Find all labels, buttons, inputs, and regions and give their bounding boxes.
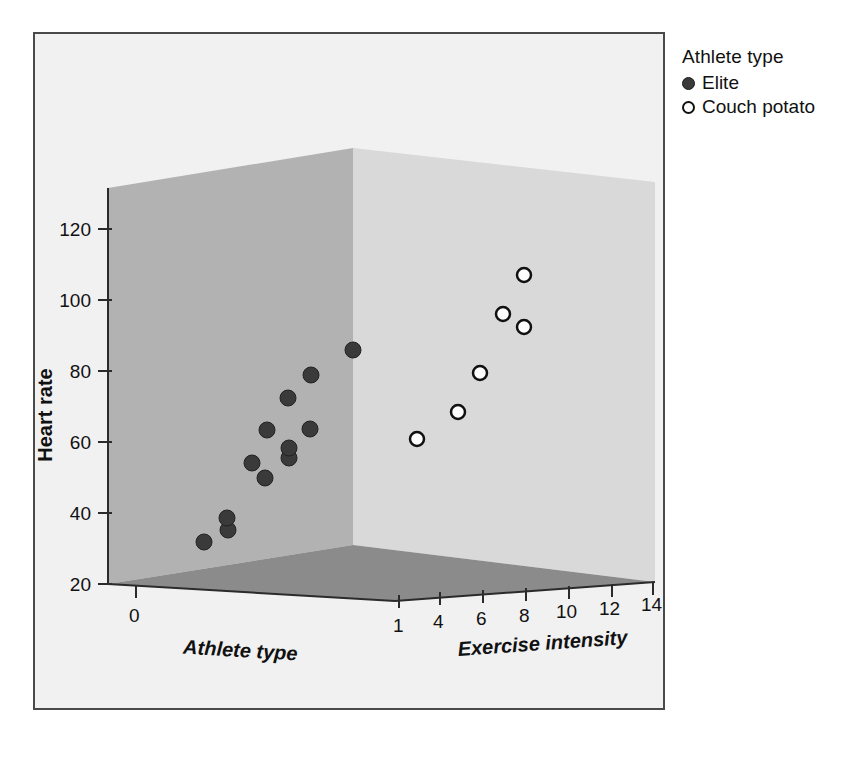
x-tick-label-4: 4	[433, 611, 444, 632]
data-point-couch-potato[interactable]	[410, 432, 424, 446]
data-point-elite[interactable]	[302, 421, 318, 437]
x-tick-label-6: 6	[476, 608, 487, 629]
legend-label-elite: Elite	[702, 72, 739, 94]
data-point-elite[interactable]	[280, 390, 296, 406]
data-point-couch-potato[interactable]	[451, 405, 465, 419]
data-point-couch-potato[interactable]	[496, 307, 510, 321]
z-tick-label-40: 40	[70, 503, 91, 524]
legend-item-couch-potato[interactable]: Couch potato	[682, 96, 847, 118]
legend-label-couch-potato: Couch potato	[702, 96, 815, 118]
z-tick-label-20: 20	[70, 574, 91, 595]
data-point-couch-potato[interactable]	[517, 320, 531, 334]
legend-title: Athlete type	[682, 46, 847, 68]
x-tick-label-12: 12	[599, 598, 620, 619]
y-tick-label-0: 0	[129, 605, 140, 626]
data-point-couch-potato[interactable]	[473, 366, 487, 380]
data-point-couch-potato[interactable]	[517, 268, 531, 282]
x-tick-label-8: 8	[519, 605, 530, 626]
data-point-elite[interactable]	[281, 440, 297, 456]
right-wall-panel	[353, 148, 655, 582]
z-tick-label-60: 60	[70, 432, 91, 453]
z-axis-title: Heart rate	[34, 368, 56, 461]
data-point-elite[interactable]	[244, 455, 260, 471]
legend: Athlete type Elite Couch potato	[682, 46, 847, 118]
data-point-elite[interactable]	[257, 470, 273, 486]
x-tick-label-14: 14	[641, 594, 663, 615]
data-point-elite[interactable]	[196, 534, 212, 550]
data-point-elite[interactable]	[219, 510, 235, 526]
legend-item-elite[interactable]: Elite	[682, 72, 847, 94]
data-point-elite[interactable]	[259, 422, 275, 438]
x-tick-label-10: 10	[556, 601, 577, 622]
data-point-elite[interactable]	[345, 342, 361, 358]
filled-circle-icon	[682, 77, 695, 90]
x-tick-label-1: 1	[393, 615, 404, 636]
open-circle-icon	[682, 101, 695, 114]
data-point-elite[interactable]	[303, 367, 319, 383]
z-tick-label-120: 120	[59, 219, 91, 240]
z-tick-label-100: 100	[59, 290, 91, 311]
figure-stage: 20 40 60 80 100 120 Heart rate 0 Athlete…	[0, 0, 853, 783]
z-tick-label-80: 80	[70, 361, 91, 382]
